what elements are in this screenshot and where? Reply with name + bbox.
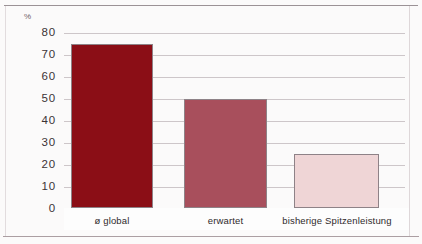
y-tick-label-40: 40 bbox=[10, 115, 56, 127]
bar-bisherige-spitzenleistung[interactable] bbox=[294, 154, 379, 208]
y-axis-unit-label: % bbox=[24, 12, 31, 21]
y-tick-label-70: 70 bbox=[10, 49, 56, 61]
x-tick-label-o-global: ø global bbox=[71, 215, 153, 226]
y-tick-label-60: 60 bbox=[10, 71, 56, 83]
bar-chart-plot-area: % 80 70 60 50 40 30 20 10 0 ø global erw… bbox=[0, 0, 422, 244]
y-tick-label-50: 50 bbox=[10, 93, 56, 105]
gridline-80 bbox=[64, 33, 405, 34]
y-tick-label-10: 10 bbox=[10, 181, 56, 193]
bar-o-global[interactable] bbox=[71, 44, 153, 208]
y-tick-label-80: 80 bbox=[10, 27, 56, 39]
bar-erwartet[interactable] bbox=[184, 99, 267, 208]
x-tick-label-erwartet: erwartet bbox=[184, 215, 267, 226]
x-tick-label-bisherige-spitzenleistung: bisherige Spitzenleistung bbox=[272, 215, 402, 226]
chart-page: % 80 70 60 50 40 30 20 10 0 ø global erw… bbox=[0, 0, 422, 244]
y-tick-label-20: 20 bbox=[10, 159, 56, 171]
y-tick-label-30: 30 bbox=[10, 137, 56, 149]
y-tick-label-0: 0 bbox=[10, 203, 56, 215]
